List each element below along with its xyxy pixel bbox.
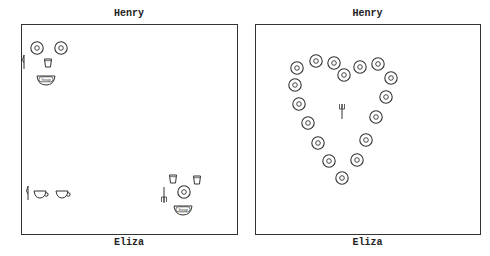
cup-icon (170, 175, 177, 183)
cup-icon (194, 176, 201, 184)
plate-icon (55, 42, 67, 54)
plate-icon (293, 98, 305, 110)
plate-icon (323, 155, 335, 167)
fork-icon (162, 187, 167, 203)
plate-icon (338, 69, 350, 81)
soup-bowl-icon (174, 206, 192, 215)
plate-icon (31, 42, 43, 54)
plate-icon (372, 58, 384, 70)
plate-icon (354, 61, 366, 73)
plate-icon (328, 57, 340, 69)
tableware-layer: Soup (0, 0, 490, 256)
plate-icon (370, 111, 382, 123)
plate-icon (289, 79, 301, 91)
plate-icon (351, 154, 363, 166)
knife-icon (23, 55, 25, 69)
plate-icon (385, 72, 397, 84)
plate-icon (336, 172, 348, 184)
soup-bowl-icon (37, 76, 55, 85)
plate-icon (360, 134, 372, 146)
plate-icon (380, 91, 392, 103)
cup-icon (45, 59, 52, 67)
knife-icon (27, 186, 29, 200)
plate-icon (312, 137, 324, 149)
fork-icon (340, 104, 345, 119)
plate-icon (302, 117, 314, 129)
plate-icon (310, 55, 322, 67)
plate-icon (291, 62, 303, 74)
teacup-icon (56, 191, 70, 198)
plate-icon (178, 186, 190, 198)
teacup-icon (34, 191, 48, 198)
